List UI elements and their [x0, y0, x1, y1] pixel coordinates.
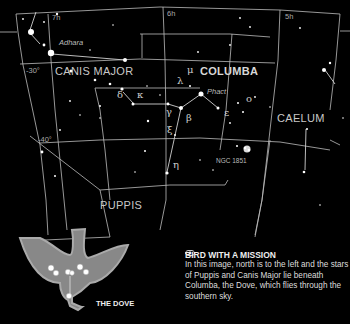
- greek-lambda: λ: [177, 75, 183, 86]
- ra-label-6h: 6h: [167, 9, 175, 18]
- ra-label-5h: 5h: [285, 12, 293, 21]
- greek-beta: β: [186, 112, 192, 123]
- ngc-1851-label: NGC 1851: [216, 157, 247, 164]
- constellation-caelum: CAELUM: [277, 112, 325, 124]
- star-name-phact: Phact: [207, 87, 226, 96]
- greek-gamma: γ: [166, 106, 172, 117]
- greek-kappa: κ: [137, 89, 143, 100]
- greek-mu: μ: [187, 64, 194, 75]
- ngc1851-cluster: [244, 146, 251, 153]
- dove-illustration: [20, 229, 128, 310]
- constellation-canis-major: CANIS MAJOR: [55, 65, 133, 77]
- dec-label-30: -30°: [26, 66, 40, 75]
- dec-label-40: -40°: [38, 135, 52, 144]
- greek-delta: δ: [117, 89, 123, 100]
- caption-body: In this image, north is to the left and …: [185, 260, 350, 302]
- ra-label-7h: 7h: [52, 13, 60, 22]
- greek-eta: η: [173, 159, 179, 170]
- dove-label: THE DOVE: [96, 299, 134, 308]
- caption-title: BIRD WITH A MISSION: [185, 250, 350, 260]
- caption-title-text: BIRD WITH A MISSION: [185, 250, 276, 260]
- greek-xi: ξ: [167, 124, 173, 135]
- greek-epsilon: ε: [224, 107, 229, 118]
- constellation-columba: COLUMBA: [200, 65, 258, 77]
- constellation-figures: [30, 12, 335, 172]
- constellation-puppis: PUPPIS: [100, 199, 142, 211]
- star-name-adhara: Adhara: [59, 38, 83, 47]
- caption: BIRD WITH A MISSION In this image, north…: [185, 250, 350, 302]
- greek-omicron: ο: [246, 93, 252, 104]
